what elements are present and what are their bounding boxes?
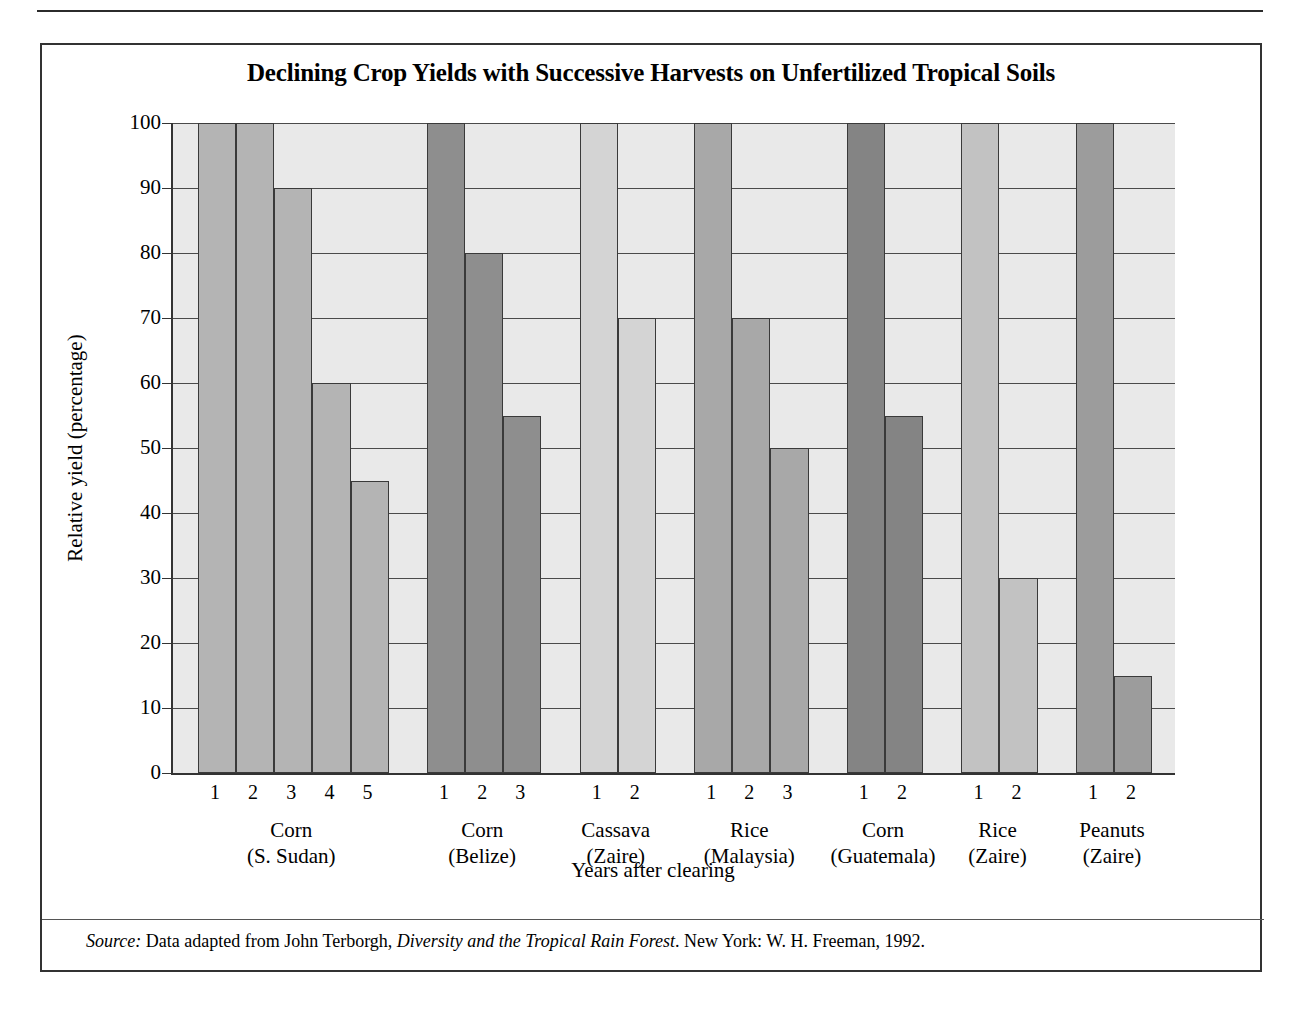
- figure-page: Declining Crop Yields with Successive Ha…: [0, 0, 1301, 1010]
- bar: [274, 188, 312, 773]
- source-note: Source: Data adapted from John Terborgh,…: [86, 931, 1226, 952]
- bar: [885, 416, 923, 774]
- x-group-crop: Corn: [448, 818, 516, 844]
- page-top-rule: [37, 10, 1263, 12]
- x-tick-label: 2: [1126, 781, 1136, 804]
- y-tick-label: 0: [41, 760, 161, 785]
- x-tick-label: 3: [783, 781, 793, 804]
- x-tick-label: 4: [324, 781, 334, 804]
- x-group-crop: Corn: [247, 818, 336, 844]
- y-tick-label: 40: [41, 500, 161, 525]
- bar: [465, 253, 503, 773]
- y-tick-label: 70: [41, 305, 161, 330]
- x-tick-label: 1: [859, 781, 869, 804]
- y-tick-label: 60: [41, 370, 161, 395]
- y-tick-mark: [162, 708, 171, 709]
- source-title-italic: Diversity and the Tropical Rain Forest: [397, 931, 675, 951]
- source-text-part2: . New York: W. H. Freeman, 1992.: [675, 931, 925, 951]
- bars-group: [173, 123, 1175, 773]
- bar: [999, 578, 1037, 773]
- bar: [618, 318, 656, 773]
- y-tick-label: 100: [41, 110, 161, 135]
- y-tick-mark: [162, 448, 171, 449]
- y-tick-mark: [162, 578, 171, 579]
- y-tick-mark: [162, 123, 171, 124]
- x-tick-label: 2: [248, 781, 258, 804]
- y-tick-mark: [162, 253, 171, 254]
- bar: [236, 123, 274, 773]
- y-tick-label: 10: [41, 695, 161, 720]
- bar: [770, 448, 808, 773]
- x-tick-label: 2: [630, 781, 640, 804]
- source-divider: [42, 919, 1264, 920]
- x-tick-label: 1: [706, 781, 716, 804]
- bar: [580, 123, 618, 773]
- y-tick-mark: [162, 188, 171, 189]
- figure-frame: Declining Crop Yields with Successive Ha…: [40, 43, 1262, 972]
- y-tick-mark: [162, 318, 171, 319]
- bar: [427, 123, 465, 773]
- x-tick-label: 1: [973, 781, 983, 804]
- y-tick-label: 90: [41, 175, 161, 200]
- x-tick-label: 1: [1088, 781, 1098, 804]
- x-tick-label: 1: [592, 781, 602, 804]
- x-tick-label: 2: [1012, 781, 1022, 804]
- bar: [198, 123, 236, 773]
- y-tick-label: 30: [41, 565, 161, 590]
- x-group-crop: Rice: [704, 818, 795, 844]
- y-axis-title: Relative yield (percentage): [63, 334, 88, 561]
- x-tick-label: 2: [897, 781, 907, 804]
- source-text-part1: Data adapted from John Terborgh,: [141, 931, 397, 951]
- bar: [312, 383, 350, 773]
- y-tick-mark: [162, 643, 171, 644]
- x-group-crop: Corn: [830, 818, 935, 844]
- source-label: Source:: [86, 931, 141, 951]
- chart-title: Declining Crop Yields with Successive Ha…: [42, 59, 1260, 87]
- x-tick-label: 2: [744, 781, 754, 804]
- y-tick-label: 20: [41, 630, 161, 655]
- plot-wrapper: 1009080706050403020100 Relative yield (p…: [171, 123, 1175, 773]
- y-tick-mark: [162, 773, 171, 774]
- bar: [961, 123, 999, 773]
- x-group-crop: Peanuts: [1079, 818, 1144, 844]
- bar: [694, 123, 732, 773]
- bar: [351, 481, 389, 774]
- x-tick-label: 3: [515, 781, 525, 804]
- x-axis-title: Years after clearing: [42, 858, 1264, 883]
- x-tick-label: 1: [439, 781, 449, 804]
- bar: [847, 123, 885, 773]
- x-tick-label: 3: [286, 781, 296, 804]
- y-tick-label: 80: [41, 240, 161, 265]
- x-tick-label: 5: [363, 781, 373, 804]
- bar: [1076, 123, 1114, 773]
- x-group-crop: Rice: [968, 818, 1026, 844]
- bar: [503, 416, 541, 774]
- x-tick-label: 2: [477, 781, 487, 804]
- y-tick-mark: [162, 513, 171, 514]
- y-tick-label: 50: [41, 435, 161, 460]
- bar: [732, 318, 770, 773]
- y-tick-mark: [162, 383, 171, 384]
- x-tick-label: 1: [210, 781, 220, 804]
- bar: [1114, 676, 1152, 774]
- x-group-crop: Cassava: [581, 818, 650, 844]
- plot-area: [171, 123, 1175, 773]
